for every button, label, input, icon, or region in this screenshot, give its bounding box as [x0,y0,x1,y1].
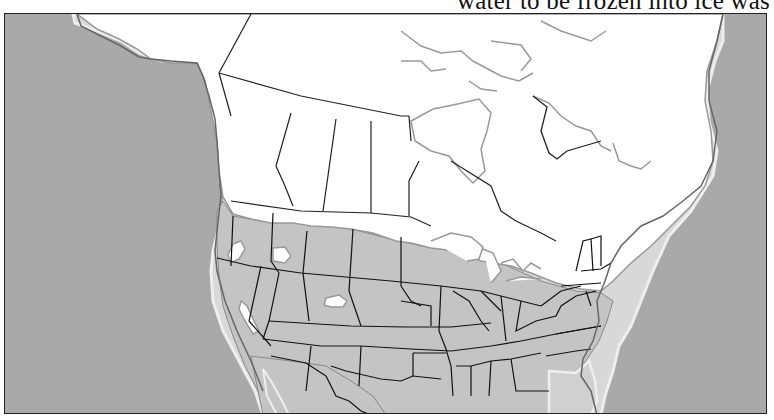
north-america-map [5,14,767,414]
map-frame [4,13,767,414]
caption-text: water to be frozen into ice was [0,0,770,14]
